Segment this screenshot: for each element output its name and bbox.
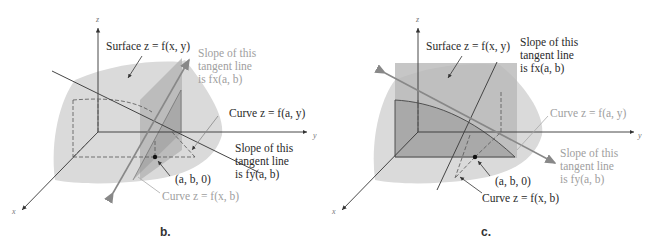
panel-c: z y x Surface z = f(x, y) Slope of this … (331, 15, 642, 239)
panel-b: z y x Surface z = f(x, y) Slope of this … (11, 15, 317, 239)
partial-derivatives-figure: z y x Surface z = f(x, y) Slope of this … (0, 0, 653, 247)
caption-b: b. (160, 225, 171, 239)
label-slope-x-3: is fx(a, b) (520, 62, 565, 75)
label-curve-a-y: Curve z = f(a, y) (229, 107, 306, 120)
label-slope-y-1: Slope of this (235, 142, 294, 155)
label-slope-x-1: Slope of this (198, 47, 257, 60)
label-curve-a-y: Curve z = f(a, y) (550, 107, 627, 120)
label-slope-x-2: tangent line (198, 60, 252, 73)
label-curve-x-b: Curve z = f(x, b) (482, 192, 559, 205)
label-slope-x-2: tangent line (520, 49, 574, 62)
label-slope-y-2: tangent line (235, 155, 289, 168)
label-slope-x-3: is fx(a, b) (198, 73, 243, 86)
label-slope-y-2: tangent line (560, 160, 614, 173)
label-slope-y-3: is fy(a, b) (235, 168, 280, 181)
point-a-b-0 (153, 155, 157, 159)
y-axis-label: y (637, 131, 642, 140)
label-slope-y-1: Slope of this (560, 147, 619, 160)
label-point: (a, b, 0) (175, 173, 211, 186)
label-curve-x-b: Curve z = f(x, b) (162, 190, 239, 203)
label-surface: Surface z = f(x, y) (106, 40, 190, 53)
surface-shape (54, 60, 223, 183)
label-slope-y-3: is fy(a, b) (560, 173, 605, 186)
label-surface: Surface z = f(x, y) (426, 40, 510, 53)
z-axis-label: z (415, 15, 420, 24)
caption-c: c. (481, 225, 491, 239)
x-axis-label: x (331, 207, 336, 216)
label-point: (a, b, 0) (495, 175, 531, 188)
y-axis-label: y (312, 131, 317, 140)
point-a-b-0 (473, 155, 477, 159)
x-axis-label: x (11, 207, 16, 216)
z-axis-label: z (95, 15, 100, 24)
label-slope-x-1: Slope of this (520, 36, 579, 49)
